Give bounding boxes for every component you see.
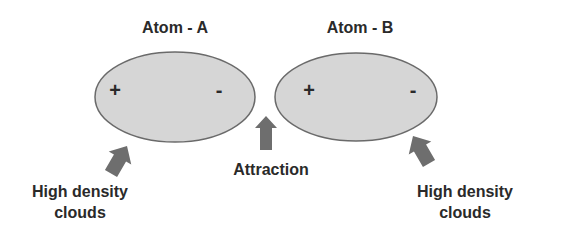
atom-a-title: Atom - A [120, 18, 230, 38]
atom-a-positive-sign: + [105, 80, 125, 100]
right-cloud-label-line2: clouds [405, 203, 525, 223]
atom-b-negative-sign: - [403, 80, 423, 100]
left-cloud-label-line1: High density [20, 182, 140, 202]
left-cloud-arrow-icon [100, 139, 139, 180]
right-cloud-label-line1: High density [405, 182, 525, 202]
left-cloud-label-line2: clouds [20, 203, 140, 223]
atom-b-positive-sign: + [299, 80, 319, 100]
attraction-arrow-icon [255, 116, 277, 150]
right-cloud-arrow-icon [402, 129, 441, 170]
attraction-label: Attraction [216, 160, 326, 180]
atom-b-title: Atom - B [305, 18, 415, 38]
atom-a-negative-sign: - [209, 80, 229, 100]
vanderwaals-diagram: Atom - A Atom - B + - + - Attraction Hig… [0, 0, 569, 241]
